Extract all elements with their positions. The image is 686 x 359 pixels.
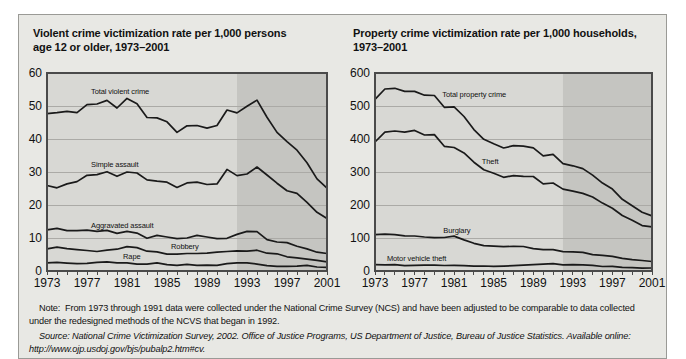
crime-victimization-figure: Violent crime victimization rate per 1,0…	[18, 14, 667, 359]
x-tick-label-1989: 1989	[194, 276, 221, 290]
series-label-robbery: Robbery	[171, 242, 199, 251]
y-tick-label-600: 600	[350, 66, 370, 80]
y-tick-label-0: 0	[363, 264, 370, 278]
property-title-line1: Property crime victimization rate per 1,…	[353, 27, 637, 39]
y-tick-label-300: 300	[350, 165, 370, 179]
y-tick-label-40: 40	[29, 132, 43, 146]
y-tick-label-100: 100	[350, 231, 370, 245]
series-label-simple-assault: Simple assault	[91, 160, 139, 169]
series-label-rape: Rape	[123, 252, 141, 261]
series-label-theft: Theft	[482, 157, 500, 166]
x-tick-label-1997: 1997	[274, 276, 301, 290]
x-tick-label-1981: 1981	[114, 276, 141, 290]
x-tick-label-1981: 1981	[441, 276, 468, 290]
property-crime-chart-title: Property crime victimization rate per 1,…	[353, 26, 637, 55]
series-label-total-violent-crime: Total violent crime	[91, 87, 149, 96]
series-label-aggravated-assault: Aggravated assault	[91, 221, 154, 230]
y-tick-label-30: 30	[29, 165, 43, 179]
y-tick-label-0: 0	[35, 264, 42, 278]
x-tick-label-1993: 1993	[234, 276, 261, 290]
x-tick-label-1997: 1997	[599, 276, 626, 290]
x-tick-label-1973: 1973	[34, 276, 61, 290]
x-tick-label-1985: 1985	[154, 276, 181, 290]
y-tick-label-20: 20	[29, 198, 43, 212]
violent-crime-chart-title: Violent crime victimization rate per 1,0…	[33, 26, 286, 55]
y-tick-label-500: 500	[350, 99, 370, 113]
x-tick-label-1973: 1973	[362, 276, 389, 290]
x-tick-label-1989: 1989	[520, 276, 547, 290]
violent-title-line2: age 12 or older, 1973–2001	[33, 41, 169, 53]
y-tick-label-10: 10	[29, 231, 43, 245]
x-tick-label-2001: 2001	[314, 276, 341, 290]
x-tick-label-1977: 1977	[401, 276, 428, 290]
x-tick-label-1985: 1985	[480, 276, 507, 290]
source-citation: Source: National Crime Victimization Sur…	[39, 331, 239, 341]
y-tick-label-400: 400	[350, 132, 370, 146]
page: Violent crime victimization rate per 1,0…	[0, 0, 686, 359]
x-tick-label-2001: 2001	[639, 276, 666, 290]
y-tick-label-60: 60	[29, 66, 43, 80]
violent-crime-chart: Total violent crimeSimple assaultAggrava…	[19, 59, 349, 299]
series-label-burglary: Burglary	[443, 226, 470, 235]
x-tick-label-1993: 1993	[560, 276, 587, 290]
series-label-total-property-crime: Total property crime	[442, 90, 506, 99]
y-tick-label-50: 50	[29, 99, 43, 113]
property-crime-chart: Total property crimeTheftBurglaryMotor v…	[349, 59, 669, 299]
series-label-motor-vehicle-theft: Motor vehicle theft	[387, 254, 447, 263]
figure-note: Note: From 1973 through 1991 data were c…	[29, 302, 659, 329]
x-tick-label-1977: 1977	[74, 276, 101, 290]
y-tick-label-200: 200	[350, 198, 370, 212]
figure-source: Source: National Crime Victimization Sur…	[29, 330, 659, 357]
violent-title-line1: Violent crime victimization rate per 1,0…	[33, 27, 286, 39]
property-title-line2: 1973–2001	[353, 41, 407, 53]
